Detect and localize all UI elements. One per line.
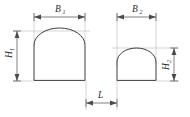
right-arched-section (117, 48, 156, 80)
dim-label-b1: B (55, 4, 61, 14)
dim-label-b2: B (132, 4, 138, 14)
dimension-l: L (86, 90, 117, 107)
dim-arrow-h2-top (172, 48, 177, 55)
dim-label-h2-subscript: 2 (166, 60, 172, 63)
engineering-dimension-diagram: B 1 B 2 H 1 (0, 0, 190, 117)
dim-arrow-l-left (86, 101, 93, 106)
extension-lines (13, 13, 179, 110)
dimension-h2: H 2 (161, 48, 178, 81)
dim-arrow-l-right (110, 101, 117, 106)
diagram-canvas: B 1 B 2 H 1 (0, 0, 190, 117)
dim-arrow-h2-bottom (172, 74, 177, 81)
left-arched-section (34, 28, 85, 80)
dim-arrow-b2-left (117, 15, 124, 20)
dim-arrow-h1-top (15, 31, 20, 38)
dimension-b1: B 1 (34, 4, 85, 21)
dim-arrow-b1-right (78, 15, 85, 20)
dim-arrow-h1-bottom (15, 74, 20, 81)
dim-label-b2-subscript: 2 (140, 9, 143, 15)
dim-arrow-b1-left (34, 15, 41, 20)
dim-arrow-b2-right (149, 15, 156, 20)
dim-label-b1-subscript: 1 (63, 9, 66, 15)
dimension-b2: B 2 (117, 4, 156, 21)
dimension-h1: H 1 (4, 31, 21, 81)
dim-label-l: L (97, 90, 103, 100)
dim-label-h1-subscript: 1 (9, 48, 15, 51)
